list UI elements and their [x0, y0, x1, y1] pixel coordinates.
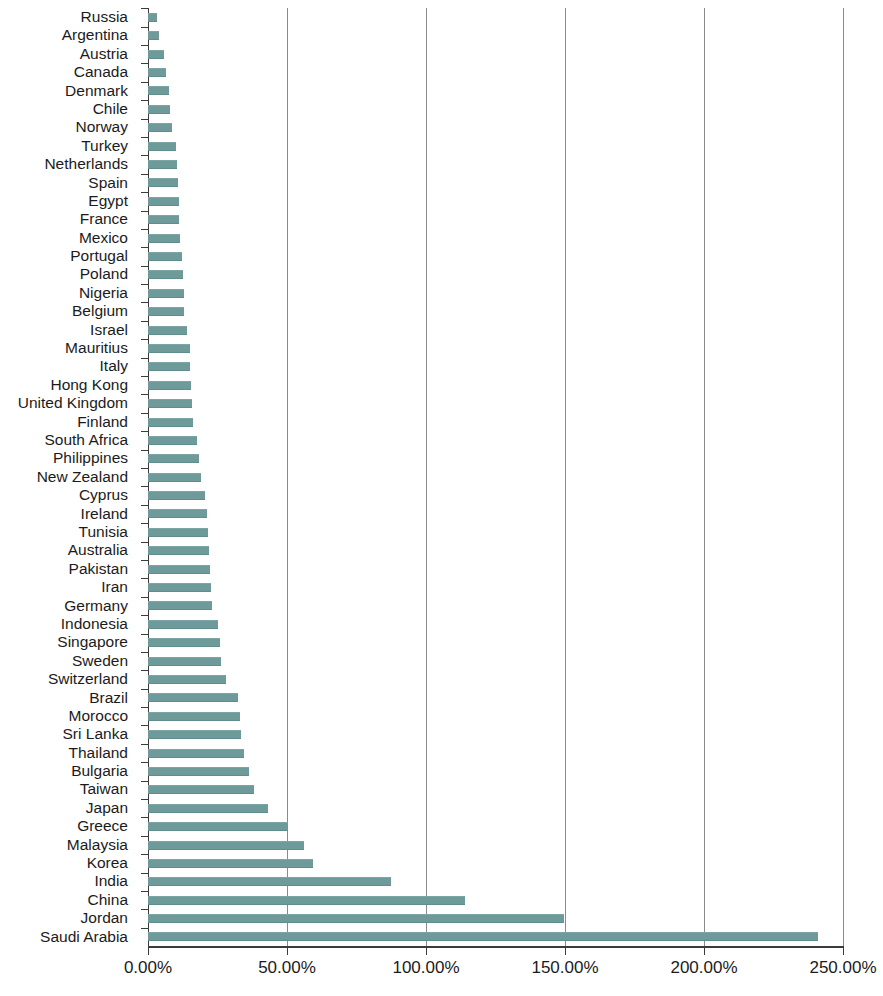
category-tick — [141, 909, 148, 910]
bar-row — [148, 854, 843, 873]
bar — [148, 767, 249, 776]
bar-row — [148, 431, 843, 450]
category-label: Greece — [77, 817, 128, 836]
category-tick — [141, 137, 148, 138]
category-label: Malaysia — [67, 836, 128, 855]
category-label: Sweden — [72, 652, 128, 671]
x-tick — [843, 946, 844, 955]
category-tick — [141, 505, 148, 506]
category-tick — [141, 542, 148, 543]
category-label: Sri Lanka — [63, 725, 128, 744]
category-label: Pakistan — [69, 560, 128, 579]
category-tick — [141, 854, 148, 855]
category-label: Germany — [64, 597, 128, 616]
category-tick — [141, 155, 148, 156]
category-label: Morocco — [69, 707, 128, 726]
bar-row — [148, 799, 843, 818]
bar-series — [148, 8, 843, 946]
bar-row — [148, 505, 843, 524]
x-tick-label: 100.00% — [392, 958, 459, 978]
bar-row — [148, 652, 843, 671]
category-label: Canada — [74, 63, 128, 82]
bar-row — [148, 137, 843, 156]
category-label: Nigeria — [79, 284, 128, 303]
category-tick — [141, 266, 148, 267]
bar — [148, 491, 205, 500]
bar — [148, 123, 172, 132]
bar — [148, 178, 178, 187]
x-tick-label: 0.00% — [124, 958, 172, 978]
category-tick — [141, 468, 148, 469]
category-label: Japan — [86, 799, 128, 818]
bar — [148, 234, 180, 243]
category-label: Mauritius — [65, 339, 128, 358]
category-tick — [141, 63, 148, 64]
bar — [148, 326, 187, 335]
bar-row — [148, 707, 843, 726]
bar — [148, 583, 211, 592]
category-tick — [141, 27, 148, 28]
bar — [148, 620, 218, 629]
bar-row — [148, 302, 843, 321]
bar — [148, 932, 818, 941]
bar-row — [148, 689, 843, 708]
bar-row — [148, 891, 843, 910]
bar-row — [148, 82, 843, 101]
category-label: Egypt — [88, 192, 128, 211]
bar — [148, 344, 190, 353]
bar — [148, 896, 465, 905]
category-tick — [141, 725, 148, 726]
bar-row — [148, 449, 843, 468]
bar — [148, 859, 313, 868]
bar-row — [148, 872, 843, 891]
category-tick — [141, 321, 148, 322]
category-tick — [141, 744, 148, 745]
bar-row — [148, 523, 843, 542]
bar — [148, 601, 212, 610]
category-label: Cyprus — [79, 486, 128, 505]
bar-row — [148, 486, 843, 505]
bar-row — [148, 541, 843, 560]
bar — [148, 804, 268, 813]
bar — [148, 749, 244, 758]
bar-row — [148, 26, 843, 45]
category-label: Korea — [87, 854, 128, 873]
bar — [148, 50, 164, 59]
category-label: Norway — [75, 118, 128, 137]
bar — [148, 785, 254, 794]
category-tick — [141, 689, 148, 690]
bar — [148, 712, 240, 721]
bar — [148, 638, 220, 647]
category-label: Italy — [100, 357, 128, 376]
category-label: Iran — [101, 578, 128, 597]
bar — [148, 657, 221, 666]
x-tick — [287, 946, 288, 955]
bar-row — [148, 63, 843, 82]
bar-row — [148, 118, 843, 137]
category-label: Saudi Arabia — [40, 928, 128, 947]
bar — [148, 914, 564, 923]
category-label: Ireland — [81, 505, 128, 524]
bar — [148, 822, 288, 831]
bar — [148, 215, 179, 224]
category-label: Russia — [81, 8, 128, 27]
bar — [148, 473, 201, 482]
bar-chart: RussiaArgentinaAustriaCanadaDenmarkChile… — [0, 0, 883, 996]
x-tick-label: 200.00% — [670, 958, 737, 978]
category-tick — [141, 247, 148, 248]
category-tick — [141, 211, 148, 212]
category-tick — [141, 284, 148, 285]
category-tick — [141, 376, 148, 377]
category-label: Thailand — [69, 744, 128, 763]
bar — [148, 252, 182, 261]
category-tick — [141, 192, 148, 193]
category-label: Bulgaria — [71, 762, 128, 781]
bar-row — [148, 376, 843, 395]
bar — [148, 197, 179, 206]
category-tick — [141, 358, 148, 359]
x-tick — [426, 946, 427, 955]
category-label: Israel — [90, 321, 128, 340]
bar — [148, 877, 391, 886]
category-label: Argentina — [62, 26, 128, 45]
category-tick — [141, 229, 148, 230]
